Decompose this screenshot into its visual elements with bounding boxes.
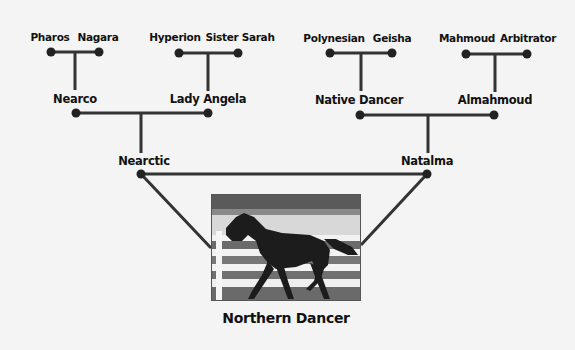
label-mahmoud: Mahmoud: [439, 32, 495, 44]
node-nearctic: [137, 170, 146, 179]
node-nearco: [72, 109, 81, 118]
node-pharos: [47, 48, 56, 57]
node-mahmoud: [462, 50, 471, 59]
label-almahmoud: Almahmoud: [458, 93, 532, 107]
node-sister-sarah: [234, 49, 243, 58]
label-northern-dancer: Northern Dancer: [222, 310, 349, 326]
label-arbitrator: Arbitrator: [500, 32, 556, 44]
node-lady-angela: [204, 109, 213, 118]
node-geisha: [388, 49, 397, 58]
label-sister-sarah: Sister Sarah: [205, 31, 274, 43]
node-hyperion: [175, 49, 184, 58]
node-nagara: [95, 48, 104, 57]
node-natalma: [423, 170, 432, 179]
label-nearctic: Nearctic: [118, 154, 170, 168]
label-nearco: Nearco: [53, 92, 97, 106]
label-lady-angela: Lady Angela: [170, 92, 246, 106]
label-polynesian: Polynesian: [303, 32, 364, 44]
horse-photo: [211, 194, 361, 301]
label-nagara: Nagara: [78, 31, 119, 43]
label-natalma: Natalma: [401, 154, 453, 168]
label-pharos: Pharos: [30, 31, 69, 43]
node-almahmoud: [490, 111, 499, 120]
label-geisha: Geisha: [373, 32, 411, 44]
label-native-dancer: Native Dancer: [315, 93, 403, 107]
label-hyperion: Hyperion: [149, 31, 200, 43]
node-polynesian: [326, 49, 335, 58]
node-native-dancer: [356, 111, 365, 120]
node-arbitrator: [523, 50, 532, 59]
